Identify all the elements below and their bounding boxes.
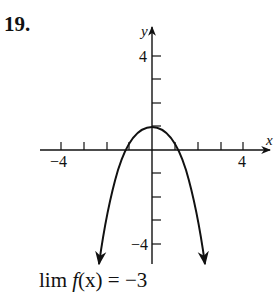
graph: y x 4 −4 −4 4 [0,0,279,294]
y-axis-label: y [139,23,148,39]
limit-value: −3 [125,268,147,292]
x-tick-label-neg4: −4 [50,153,67,170]
limit-caption: lim f(x) = −3 [39,268,147,293]
x-tick-label-4: 4 [238,153,246,170]
x-axis-label: x [265,132,273,148]
lim-text: lim [39,268,67,292]
function-arg: (x) [78,268,103,292]
equals-sign: = [108,268,120,292]
y-tick-label-4: 4 [139,48,147,65]
y-tick-label-neg4: −4 [131,236,148,253]
